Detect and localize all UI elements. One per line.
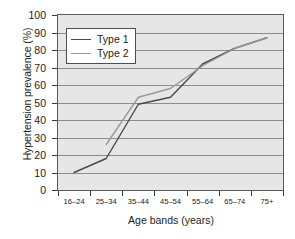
legend-label-type-1: Type 1 (97, 33, 129, 45)
chart-figure: Hypertension prevalence (%) 010203040506… (0, 0, 295, 239)
y-tick-label: 100 (6, 10, 46, 20)
x-tick-label: 25–34 (96, 197, 117, 206)
y-tick-label: 40 (6, 115, 46, 125)
x-tick-label: 16–24 (64, 197, 85, 206)
x-axis-title: Age bands (years) (57, 214, 285, 226)
x-tick (90, 191, 91, 196)
x-tick (187, 191, 188, 196)
legend: Type 1 Type 2 (66, 28, 136, 64)
y-tick-label: 20 (6, 150, 46, 160)
y-tick-label: 90 (6, 28, 46, 38)
x-tick-label: 35–44 (128, 197, 149, 206)
x-tick-label: 55–64 (192, 197, 213, 206)
legend-swatch-type-1 (71, 39, 91, 40)
x-tick (219, 191, 220, 196)
y-tick-label: 30 (6, 133, 46, 143)
x-tick-label: 45–54 (160, 197, 181, 206)
legend-swatch-type-2 (71, 53, 91, 54)
y-tick-label: 50 (6, 98, 46, 108)
x-tick (154, 191, 155, 196)
x-tick-label: 75+ (260, 197, 273, 206)
y-tick-label: 60 (6, 80, 46, 90)
y-tick-label: 10 (6, 168, 46, 178)
x-tick (251, 191, 252, 196)
y-tick-label: 70 (6, 63, 46, 73)
legend-item-type-2: Type 2 (71, 46, 129, 60)
y-tick-label: 0 (6, 185, 46, 195)
x-tick (122, 191, 123, 196)
legend-label-type-2: Type 2 (97, 47, 129, 59)
x-tick (58, 191, 59, 196)
x-tick-label: 65–74 (224, 197, 245, 206)
y-tick-label: 80 (6, 45, 46, 55)
x-tick (283, 191, 284, 196)
legend-item-type-1: Type 1 (71, 32, 129, 46)
